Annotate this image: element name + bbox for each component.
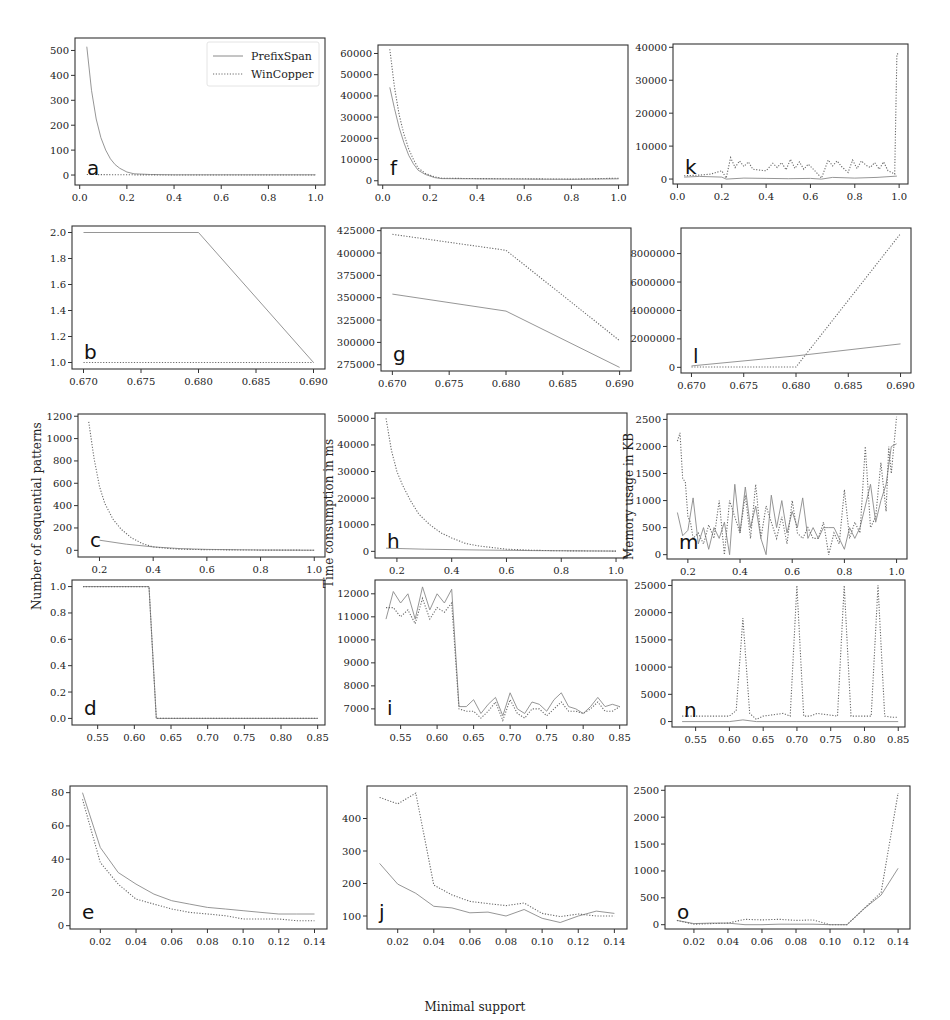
x-tick-label: 0.04 [125, 936, 147, 947]
x-tick-label: 0.06 [161, 936, 183, 947]
x-tick-label: 1.0 [889, 566, 905, 577]
x-tick-label: 0.6 [499, 565, 515, 576]
y-tick-label: 400000 [337, 248, 375, 259]
y-tick-label: 1500 [636, 468, 661, 479]
x-tick-label: 0.2 [714, 191, 730, 202]
x-tick-label: 0.6 [784, 566, 800, 577]
panel-i: 0.550.600.650.700.750.800.85700080009000… [337, 580, 631, 743]
x-tick-label: 1.0 [891, 191, 907, 202]
y-tick-label: 40000 [337, 439, 369, 450]
x-tick-label: 0.690 [299, 376, 328, 387]
x-tick-label: 0.685 [242, 376, 271, 387]
x-tick-label: 0.65 [462, 732, 484, 743]
y-tick-label: 10000 [340, 154, 372, 165]
x-tick-label: 0.4 [444, 565, 460, 576]
y-tick-label: 25000 [634, 580, 666, 591]
panel-letter: i [387, 696, 393, 720]
y-axis-label-right: Memory usage in KB [622, 433, 636, 560]
y-tick-label: 100 [50, 145, 69, 156]
panel-letter: b [84, 340, 97, 364]
legend-label-prefixspan: PrefixSpan [251, 50, 312, 63]
panel-letter: d [84, 696, 97, 720]
x-tick-label: 0.55 [389, 732, 411, 743]
y-tick-label: 1.6 [50, 279, 66, 290]
x-tick-label: 0.08 [785, 936, 807, 947]
y-tick-label: 325000 [337, 315, 375, 326]
y-tick-label: 80 [51, 787, 64, 798]
y-tick-label: 400 [50, 70, 69, 81]
y-tick-label: 1000 [47, 433, 72, 444]
y-tick-label: 30000 [337, 466, 369, 477]
x-tick-label: 0.80 [270, 732, 292, 743]
panel-f: 0.00.20.40.60.81.00100002000030000400005… [340, 45, 628, 203]
x-tick-label: 0.60 [426, 732, 448, 743]
legend: PrefixSpanWinCopper [207, 42, 319, 86]
panel-letter: j [378, 900, 385, 924]
figure-canvas: 0.00.20.40.60.81.00100200300400500aPrefi… [0, 0, 950, 1020]
y-tick-label: 1.2 [50, 331, 66, 342]
x-tick-label: 0.55 [685, 734, 707, 745]
x-tick-label: 0.12 [853, 936, 875, 947]
y-tick-label: 0 [366, 175, 372, 186]
y-tick-label: 30000 [635, 75, 667, 86]
y-axis-label-left: Number of sequential patterns [30, 422, 44, 610]
panel-letter: h [387, 529, 400, 553]
plot-frame [367, 786, 627, 929]
x-tick-label: 0.6 [213, 192, 229, 203]
x-tick-label: 0.02 [89, 936, 111, 947]
y-tick-label: 0 [669, 362, 675, 373]
x-tick-label: 0.670 [378, 378, 407, 389]
panel-e: 0.020.040.060.080.100.120.14020406080e [51, 786, 327, 947]
plot-frame [673, 44, 908, 184]
y-tick-label: 375000 [337, 270, 375, 281]
y-tick-label: 1000 [634, 865, 659, 876]
y-tick-label: 600 [53, 478, 72, 489]
x-tick-label: 0.65 [160, 732, 182, 743]
x-tick-label: 0.2 [680, 566, 696, 577]
y-tick-label: 400 [53, 500, 72, 511]
x-tick-label: 0.6 [802, 191, 818, 202]
x-tick-label: 0.60 [123, 732, 145, 743]
y-tick-label: 0 [653, 919, 659, 930]
panel-m: 0.20.40.60.81.005001000150020002500m [636, 414, 907, 577]
x-tick-label: 0.75 [820, 734, 842, 745]
y-tick-label: 500 [640, 892, 659, 903]
y-tick-label: 11000 [337, 611, 369, 622]
x-tick-label: 0.670 [677, 380, 706, 391]
y-tick-label: 50000 [337, 413, 369, 424]
y-tick-label: 0.0 [50, 713, 66, 724]
y-tick-label: 20 [51, 887, 64, 898]
panel-letter: a [87, 156, 99, 180]
y-tick-label: 10000 [635, 141, 667, 152]
x-tick-label: 0.685 [548, 378, 577, 389]
x-tick-label: 0.08 [196, 936, 218, 947]
plot-frame [665, 786, 910, 929]
y-tick-label: 20000 [337, 493, 369, 504]
y-tick-label: 50000 [340, 69, 372, 80]
plot-frame [375, 413, 627, 558]
x-tick-label: 0.4 [758, 191, 774, 202]
y-tick-label: 0 [58, 920, 64, 931]
x-tick-label: 0.680 [782, 380, 811, 391]
x-tick-label: 0.680 [184, 376, 213, 387]
panel-letter: l [693, 344, 699, 368]
plot-frame [70, 786, 327, 929]
y-tick-label: 8000 [344, 680, 369, 691]
x-tick-label: 0.06 [459, 936, 481, 947]
x-tick-label: 0.4 [166, 192, 182, 203]
y-tick-label: 0.4 [50, 660, 66, 671]
panel-letter: c [90, 528, 101, 552]
x-tick-label: 0.690 [886, 380, 915, 391]
x-tick-label: 0.85 [307, 732, 329, 743]
x-tick-label: 0.04 [717, 936, 739, 947]
y-tick-label: 0.6 [50, 634, 66, 645]
x-tick-label: 0.06 [751, 936, 773, 947]
plot-frame [672, 580, 905, 727]
y-tick-label: 1200 [47, 411, 72, 422]
y-tick-label: 20000 [340, 133, 372, 144]
x-tick-label: 0.02 [683, 936, 705, 947]
y-tick-label: 4000000 [630, 305, 675, 316]
x-tick-label: 0.14 [887, 936, 909, 947]
y-tick-label: 300 [342, 846, 361, 857]
x-tick-label: 0.85 [887, 734, 909, 745]
